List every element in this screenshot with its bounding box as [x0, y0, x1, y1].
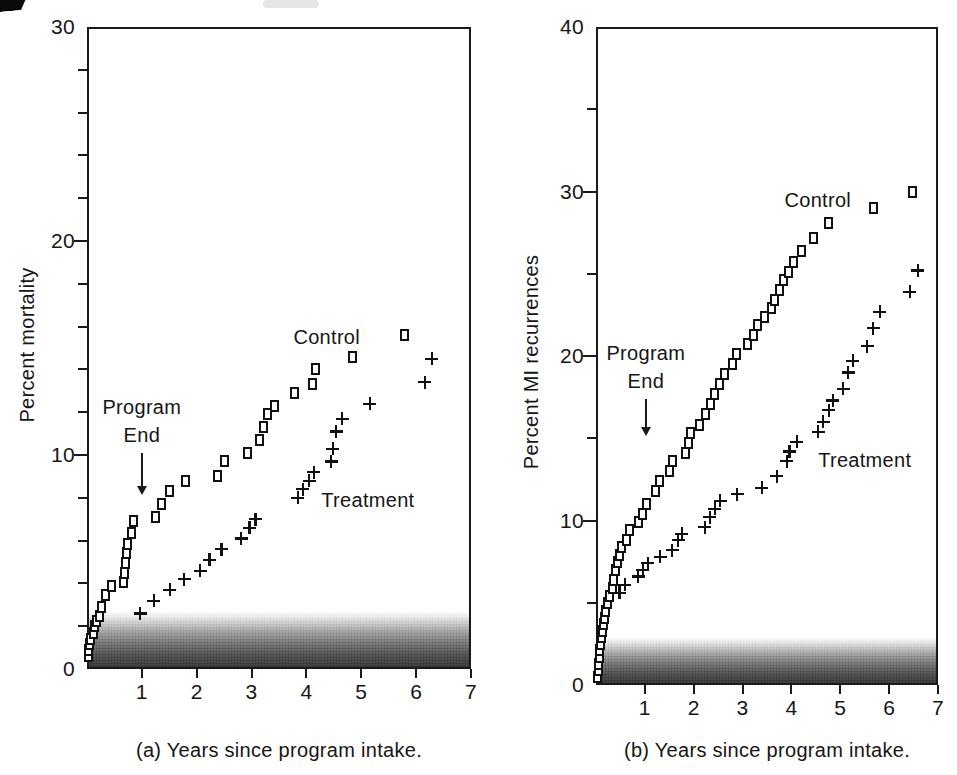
control-data-point	[625, 524, 634, 536]
control-data-point	[686, 427, 695, 439]
control-data-point	[732, 348, 741, 360]
x-axis-tick	[693, 685, 695, 694]
treatment-data-point	[873, 305, 886, 318]
control-data-point	[157, 498, 166, 510]
control-data-point	[797, 245, 806, 257]
x-axis-tick	[415, 669, 417, 678]
control-data-point	[151, 511, 160, 523]
treatment-data-point	[837, 382, 850, 395]
control-series-label: Control	[293, 326, 360, 349]
x-axis-tick	[644, 685, 646, 694]
treatment-data-point	[418, 376, 431, 389]
program-end-label: Program End	[606, 339, 685, 395]
y-axis-minor-tick	[78, 625, 87, 627]
panel-b-caption: (b) Years since program intake.	[596, 738, 938, 762]
treatment-data-point	[249, 513, 262, 526]
treatment-data-point	[842, 366, 855, 379]
control-data-point	[789, 256, 798, 268]
control-data-point	[908, 186, 917, 198]
y-tick-label: 10	[29, 442, 75, 468]
y-axis-minor-tick	[587, 437, 596, 439]
plot-frame	[87, 27, 471, 669]
treatment-data-point	[163, 583, 176, 596]
y-axis-minor-tick	[78, 326, 87, 328]
x-axis-tick	[251, 669, 253, 678]
control-data-point	[869, 202, 878, 214]
treatment-data-point	[903, 285, 916, 298]
panel-b-y-axis-title: Percent MI recurrences	[520, 255, 543, 469]
panel-a-y-axis-title: Percent mortality	[16, 267, 39, 422]
x-axis-tick	[742, 685, 744, 694]
treatment-data-point	[755, 481, 768, 494]
y-tick-label: 10	[538, 508, 584, 534]
y-axis-minor-tick	[78, 540, 87, 542]
y-axis-tick	[583, 355, 596, 357]
treatment-data-point	[326, 442, 339, 455]
program-end-arrow	[141, 453, 143, 486]
treatment-series-label: Treatment	[818, 448, 911, 471]
control-data-point	[259, 421, 268, 433]
y-tick-label: 40	[538, 14, 584, 40]
treatment-data-point	[731, 488, 744, 501]
treatment-data-point	[911, 264, 924, 277]
y-tick-label: 0	[538, 672, 584, 698]
control-data-point	[127, 527, 136, 539]
control-data-point	[97, 601, 106, 613]
treatment-data-point	[770, 470, 783, 483]
y-axis-minor-tick	[587, 602, 596, 604]
control-data-point	[655, 475, 664, 487]
control-data-point	[220, 455, 229, 467]
scan-artifact-corner	[0, 0, 29, 12]
control-series-label: Control	[785, 188, 852, 211]
control-data-point	[270, 400, 279, 412]
treatment-data-point	[675, 527, 688, 540]
panel-b-plot: 0102030401234567Program EndControlTreatm…	[596, 27, 938, 685]
x-axis-tick	[196, 669, 198, 678]
control-data-point	[642, 498, 651, 510]
treatment-data-point	[203, 553, 216, 566]
y-tick-label: 30	[538, 179, 584, 205]
x-tick-label: 3	[723, 696, 763, 720]
control-data-point	[311, 363, 320, 375]
arrow-head-icon	[137, 486, 147, 495]
treatment-data-point	[425, 352, 438, 365]
y-axis-minor-tick	[78, 582, 87, 584]
treatment-data-point	[618, 578, 631, 591]
y-axis-minor-tick	[78, 197, 87, 199]
treatment-data-point	[861, 340, 874, 353]
y-tick-label: 30	[29, 14, 75, 40]
y-axis-minor-tick	[78, 112, 87, 114]
control-data-point	[213, 470, 222, 482]
treatment-data-point	[178, 573, 191, 586]
panel-a-caption: (a) Years since program intake.	[87, 738, 471, 762]
y-axis-tick	[583, 520, 596, 522]
treatment-data-point	[867, 322, 880, 335]
treatment-data-point	[654, 550, 667, 563]
x-tick-label: 2	[177, 680, 217, 704]
treatment-data-point	[134, 607, 147, 620]
panel-a-plot: 01020301234567Program EndControlTreatmen…	[87, 27, 471, 669]
x-tick-label: 7	[451, 680, 491, 704]
control-data-point	[290, 387, 299, 399]
x-tick-label: 4	[771, 696, 811, 720]
y-axis-tick	[74, 454, 87, 456]
x-axis-tick	[470, 669, 472, 678]
scan-artifact-smudge	[263, 0, 319, 8]
arrow-head-icon	[641, 427, 651, 436]
y-axis-minor-tick	[78, 283, 87, 285]
y-axis-minor-tick	[587, 273, 596, 275]
x-axis-tick	[839, 685, 841, 694]
figure-canvas: 01020301234567Program EndControlTreatmen…	[0, 0, 957, 775]
y-tick-label: 20	[29, 228, 75, 254]
control-data-point	[695, 419, 704, 431]
x-axis-tick	[141, 669, 143, 678]
control-data-point	[348, 351, 357, 363]
treatment-data-point	[215, 543, 228, 556]
treatment-data-point	[147, 594, 160, 607]
treatment-data-point	[330, 425, 343, 438]
x-tick-label: 6	[396, 680, 436, 704]
control-data-point	[400, 329, 409, 341]
x-tick-label: 3	[232, 680, 272, 704]
control-data-point	[720, 368, 729, 380]
control-data-point	[165, 485, 174, 497]
